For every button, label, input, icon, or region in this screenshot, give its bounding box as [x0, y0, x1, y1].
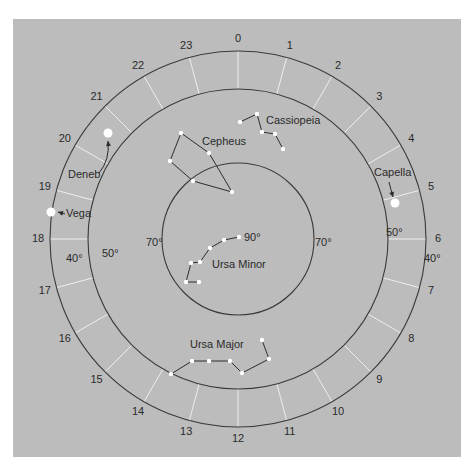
star-icon — [222, 238, 226, 242]
hour-label: 21 — [90, 90, 102, 102]
declination-label: 70° — [315, 236, 332, 248]
bright-star-label: Deneb — [68, 168, 100, 180]
star-icon — [184, 280, 188, 284]
hour-label: 11 — [284, 425, 295, 437]
hour-label: 15 — [90, 373, 102, 385]
star-icon — [267, 357, 271, 361]
constellation-label: Cassiopeia — [266, 114, 321, 126]
star-icon — [168, 159, 172, 163]
star-icon — [169, 372, 173, 376]
constellation-label: Ursa Major — [190, 338, 244, 350]
hour-label: 14 — [132, 405, 144, 417]
hour-label: 16 — [59, 332, 71, 344]
star-icon — [230, 190, 234, 194]
star-icon — [189, 261, 193, 265]
constellation-label: Ursa Minor — [212, 258, 266, 270]
hour-label: 22 — [132, 59, 144, 71]
hour-label: 18 — [32, 232, 44, 244]
hour-label: 4 — [408, 132, 414, 144]
declination-label: 50° — [102, 247, 119, 259]
constellation-label: Cepheus — [202, 135, 247, 147]
hour-label: 7 — [428, 284, 434, 296]
star-icon — [207, 359, 211, 363]
hour-label: 3 — [376, 90, 382, 102]
star-icon — [281, 147, 285, 151]
hour-label: 13 — [180, 425, 192, 437]
bright-star-icon — [104, 129, 113, 138]
bright-star-label: Vega — [66, 207, 92, 219]
star-icon — [228, 359, 232, 363]
hour-label: 1 — [287, 39, 293, 51]
star-icon — [260, 338, 264, 342]
star-icon — [238, 120, 242, 124]
hour-label: 12 — [232, 432, 244, 444]
hour-label: 0 — [235, 32, 241, 44]
star-icon — [260, 130, 264, 134]
star-chart: 01234567891011121314151617181920212223 4… — [0, 0, 474, 473]
hour-label: 2 — [335, 59, 341, 71]
hour-label: 5 — [428, 180, 434, 192]
star-icon — [237, 235, 241, 239]
chart-background — [13, 19, 461, 457]
hour-label: 23 — [180, 39, 192, 51]
declination-label: 40° — [424, 252, 441, 264]
hour-label: 17 — [39, 284, 51, 296]
hour-label: 19 — [39, 180, 51, 192]
star-icon — [197, 280, 201, 284]
star-icon — [198, 260, 202, 264]
hour-label: 8 — [408, 332, 414, 344]
bright-star-icon — [47, 208, 56, 217]
hour-label: 20 — [59, 132, 71, 144]
bright-star-label: Capella — [374, 166, 412, 178]
star-icon — [207, 151, 211, 155]
declination-label: 70° — [146, 236, 163, 248]
declination-label: 40° — [66, 252, 83, 264]
declination-label: 50° — [386, 226, 403, 238]
star-icon — [240, 371, 244, 375]
star-icon — [273, 132, 277, 136]
hour-label: 9 — [376, 373, 382, 385]
star-icon — [191, 179, 195, 183]
star-icon — [255, 112, 259, 116]
hour-label: 6 — [435, 232, 441, 244]
star-icon — [179, 131, 183, 135]
hour-label: 10 — [332, 405, 344, 417]
declination-label: 90° — [244, 231, 261, 243]
star-icon — [190, 359, 194, 363]
bright-star-icon — [391, 199, 400, 208]
star-icon — [208, 246, 212, 250]
